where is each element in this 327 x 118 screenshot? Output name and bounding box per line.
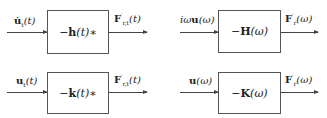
output-label-bottom-left: F′r,t(t) [114,75,141,85]
output-prime: ′ [121,73,122,80]
output-arrow-bottom-left [109,92,147,93]
input-arrow-bottom-right [180,92,218,93]
output-prime: ′ [292,73,293,80]
input-symbol: u [191,14,198,25]
input-label-top-left: u̇t(t) [14,16,36,26]
input-arg: (t) [26,75,38,86]
transfer-arg: (ω) [250,87,268,100]
input-arg: (ω) [199,14,215,25]
input-arrow-bottom-left [7,92,47,93]
output-prime: ′ [121,12,122,19]
input-arg: (t) [24,15,36,26]
block-top-right: −H(ω) [218,10,281,53]
transfer-symbol: k [69,87,77,100]
output-arg: (ω) [296,74,312,85]
transfer-sign: − [231,25,240,38]
output-arg: (t) [129,13,141,24]
input-arrow-top-left [7,32,47,33]
output-label-bottom-right: F′r(ω) [285,75,312,85]
output-label-top-right: F′r(ω) [285,14,312,24]
block-top-left: −h(t) ∗ [47,10,109,54]
transfer-symbol: H [240,25,250,38]
input-arg: (ω) [196,75,212,86]
transfer-sign: − [59,26,68,39]
output-arg: (t) [129,74,141,85]
transfer-arg: (ω) [251,25,269,38]
output-arrow-top-left [109,32,147,33]
output-arg: (ω) [296,13,312,24]
transfer-symbol: K [241,87,251,100]
input-label-bottom-right: u(ω) [189,76,212,86]
input-label-top-right: iωu(ω) [180,15,215,25]
block-bottom-right: −K(ω) [218,72,281,114]
transfer-sign: − [231,87,240,100]
transfer-sign: − [59,87,68,100]
output-label-top-left: F′r,t(t) [114,14,141,24]
input-prefix: iω [180,14,191,25]
output-arrow-bottom-right [281,92,318,93]
transfer-arg: (t) [76,87,89,100]
input-arrow-top-right [180,32,218,33]
transfer-arg: (t) [76,26,89,39]
input-label-bottom-left: ut(t) [16,76,38,86]
output-arrow-top-right [281,32,318,33]
block-bottom-left: −k(t) ∗ [47,72,109,114]
output-prime: ′ [292,12,293,19]
transfer-symbol: h [68,26,76,39]
convolution-operator: ∗ [89,26,96,39]
convolution-operator: ∗ [89,87,96,100]
